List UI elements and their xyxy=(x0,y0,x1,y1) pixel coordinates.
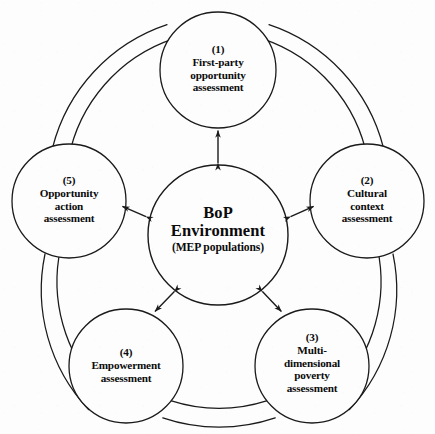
ring-segment-1-2 xyxy=(269,25,383,148)
ring-segment-5-1 xyxy=(53,25,167,148)
spoke-arrow-center-5 xyxy=(122,206,146,216)
diagram-canvas: (1) First-party opportunity assessment (… xyxy=(0,0,435,434)
node-circle-4[interactable] xyxy=(69,309,183,423)
cycle-diagram-svg xyxy=(0,0,435,434)
ring-segment-3-4-inner xyxy=(171,401,268,409)
node-circle-5[interactable] xyxy=(12,144,126,258)
center-circle[interactable] xyxy=(148,165,288,305)
node-circle-3[interactable] xyxy=(255,309,369,423)
ring-segment-1-2-inner xyxy=(263,39,368,159)
spoke-arrow-center-4 xyxy=(155,292,174,312)
spoke-arrow-center-3 xyxy=(262,292,281,312)
node-circle-2[interactable] xyxy=(310,144,424,258)
spoke-arrow-center-2 xyxy=(291,206,314,216)
node-circle-1[interactable] xyxy=(160,12,276,128)
ring-segment-5-1-inner xyxy=(68,39,173,159)
ring-segment-3-4 xyxy=(163,418,275,427)
